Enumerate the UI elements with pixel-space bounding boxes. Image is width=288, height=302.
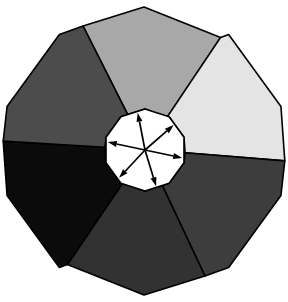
figure-root [0, 0, 288, 302]
segmented-polygon-figure [0, 0, 288, 302]
